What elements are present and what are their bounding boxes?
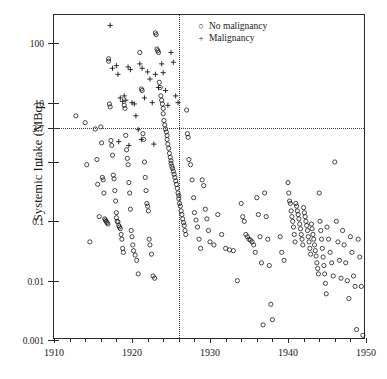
y-tick-inner bbox=[54, 43, 59, 44]
data-point-circle bbox=[242, 219, 246, 223]
data-point-circle bbox=[96, 182, 100, 186]
data-point-circle bbox=[294, 201, 298, 205]
x-tick-minor bbox=[319, 338, 320, 342]
data-point-circle bbox=[305, 228, 309, 232]
data-point-circle bbox=[131, 249, 135, 253]
data-point-circle bbox=[99, 141, 103, 145]
data-point-circle bbox=[315, 261, 319, 265]
data-point-plus bbox=[151, 142, 156, 147]
data-point-circle bbox=[300, 237, 304, 241]
data-point-circle bbox=[197, 237, 201, 241]
data-point-circle bbox=[159, 94, 163, 98]
data-point-circle bbox=[146, 204, 150, 208]
data-point-circle bbox=[138, 50, 142, 54]
legend-item: +Malignancy bbox=[196, 32, 267, 44]
data-point-circle bbox=[312, 237, 316, 241]
data-point-circle bbox=[355, 327, 359, 331]
data-point-circle bbox=[323, 281, 327, 285]
data-point-circle bbox=[131, 243, 135, 247]
data-point-circle bbox=[231, 249, 235, 253]
data-point-plus bbox=[161, 70, 166, 75]
reference-line-vertical bbox=[179, 15, 180, 338]
data-point-circle bbox=[124, 133, 128, 137]
y-tick-label: 0.001 bbox=[23, 336, 44, 346]
data-point-circle bbox=[157, 80, 161, 84]
data-point-circle bbox=[194, 218, 198, 222]
x-tick-minor bbox=[163, 338, 164, 342]
data-point-circle bbox=[114, 199, 118, 203]
data-point-plus bbox=[114, 63, 119, 68]
data-point-circle bbox=[182, 223, 186, 227]
data-point-circle bbox=[128, 207, 132, 211]
data-point-circle bbox=[185, 108, 189, 112]
x-tick-minor bbox=[70, 338, 71, 342]
data-point-circle bbox=[101, 178, 105, 182]
data-point-circle bbox=[124, 148, 128, 152]
x-tick-minor bbox=[85, 338, 86, 342]
data-point-plus bbox=[140, 66, 145, 71]
data-point-circle bbox=[319, 237, 323, 241]
x-tick-minor bbox=[148, 338, 149, 342]
data-point-circle bbox=[192, 211, 196, 215]
reference-line-horizontal bbox=[54, 128, 364, 129]
data-point-circle bbox=[318, 219, 322, 223]
data-point-circle bbox=[282, 258, 286, 262]
data-point-circle bbox=[359, 284, 363, 288]
data-point-circle bbox=[323, 272, 327, 276]
x-tick-major bbox=[132, 338, 133, 343]
data-point-circle bbox=[144, 188, 148, 192]
data-point-circle bbox=[187, 157, 191, 161]
data-point-circle bbox=[114, 211, 118, 215]
y-tick-inner bbox=[54, 281, 59, 282]
data-point-circle bbox=[348, 235, 352, 239]
data-point-circle bbox=[306, 235, 310, 239]
data-point-plus bbox=[145, 69, 150, 74]
x-tick-minor bbox=[335, 338, 336, 342]
data-point-circle bbox=[135, 258, 139, 262]
data-point-circle bbox=[120, 237, 124, 241]
data-point-circle bbox=[334, 219, 338, 223]
data-point-circle bbox=[121, 250, 125, 254]
data-point-circle bbox=[108, 105, 112, 109]
data-point-circle bbox=[203, 207, 207, 211]
series-malignancy bbox=[108, 23, 181, 148]
data-point-circle bbox=[147, 237, 151, 241]
data-point-circle bbox=[149, 252, 153, 256]
data-point-circle bbox=[304, 219, 308, 223]
data-point-circle bbox=[188, 163, 192, 167]
x-tick-major bbox=[54, 338, 55, 343]
data-point-circle bbox=[121, 246, 125, 250]
data-point-circle bbox=[97, 215, 101, 219]
data-point-circle bbox=[339, 276, 343, 280]
data-point-plus bbox=[165, 103, 170, 108]
x-tick-label: 1910 bbox=[44, 347, 64, 358]
data-point-circle bbox=[287, 191, 291, 195]
data-point-circle bbox=[302, 206, 306, 210]
data-point-circle bbox=[128, 191, 132, 195]
data-point-circle bbox=[107, 102, 111, 106]
data-point-circle bbox=[350, 250, 354, 254]
data-point-plus bbox=[129, 100, 134, 105]
y-tick-inner bbox=[54, 103, 59, 104]
data-point-plus bbox=[168, 50, 173, 55]
data-point-circle bbox=[83, 121, 87, 125]
data-point-circle bbox=[264, 215, 268, 219]
legend-label: Malignancy bbox=[209, 32, 254, 44]
data-point-circle bbox=[291, 219, 295, 223]
x-tick-major bbox=[288, 338, 289, 343]
data-point-circle bbox=[195, 225, 199, 229]
data-point-circle bbox=[88, 240, 92, 244]
legend-label: No malignancy bbox=[209, 20, 267, 32]
data-point-circle bbox=[109, 138, 113, 142]
data-point-circle bbox=[298, 227, 302, 231]
scatter-plot-figure: Systemic Intake (MBq) 100103.710.10.010.… bbox=[0, 0, 387, 379]
data-points-layer bbox=[54, 15, 366, 340]
data-point-circle bbox=[267, 263, 271, 267]
data-point-circle bbox=[361, 333, 365, 337]
data-point-plus bbox=[116, 139, 121, 144]
data-point-circle bbox=[319, 228, 323, 232]
x-tick-minor bbox=[241, 338, 242, 342]
data-point-circle bbox=[309, 252, 313, 256]
data-point-circle bbox=[290, 215, 294, 219]
data-point-circle bbox=[278, 235, 282, 239]
